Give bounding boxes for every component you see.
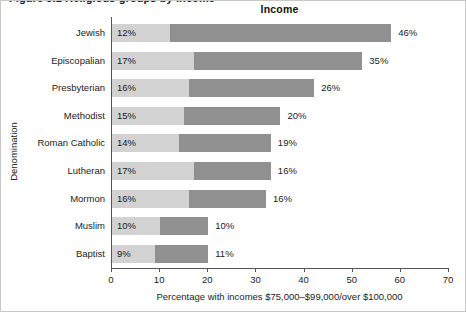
y-axis-category-label: Methodist [64, 110, 105, 121]
bar-segment-label-lower-income: 14% [117, 137, 136, 148]
bar-end-label-higher-income: 19% [278, 137, 297, 148]
y-axis-category-label: Episcopalian [51, 55, 105, 66]
x-axis-tick [111, 268, 112, 272]
y-axis-category-label: Muslim [75, 220, 105, 231]
bar-segment-label-lower-income: 17% [117, 165, 136, 176]
x-axis-tick [400, 268, 401, 272]
bar-row: 14%19% [111, 134, 448, 152]
bar-segment-higher-income [194, 162, 271, 180]
x-axis-tick-label: 10 [154, 274, 165, 285]
chart-figure: Figure 3.1 Religious groups by income In… [0, 0, 466, 312]
plot-area: 01020304050607012%46%17%35%16%26%15%20%1… [111, 17, 448, 267]
x-axis-tick [304, 268, 305, 272]
y-axis-category-label: Lutheran [67, 165, 105, 176]
x-axis-tick [352, 268, 353, 272]
bar-row: 10%10% [111, 217, 448, 235]
y-axis-category-label: Jewish [76, 27, 105, 38]
bar-segment-label-lower-income: 10% [117, 220, 136, 231]
bar-segment-label-lower-income: 15% [117, 110, 136, 121]
bar-segment-label-lower-income: 16% [117, 193, 136, 204]
bar-end-label-higher-income: 20% [288, 110, 307, 121]
y-axis-category-label: Baptist [76, 248, 105, 259]
bar-segment-higher-income [179, 134, 270, 152]
bar-row: 17%35% [111, 52, 448, 70]
x-axis-tick-label: 70 [443, 274, 454, 285]
x-axis-line [111, 268, 449, 269]
bar-end-label-higher-income: 26% [321, 82, 340, 93]
bar-segment-higher-income [184, 107, 280, 125]
x-axis-tick [255, 268, 256, 272]
x-axis-tick-label: 40 [298, 274, 309, 285]
bar-end-label-higher-income: 46% [398, 27, 417, 38]
bar-row: 15%20% [111, 107, 448, 125]
y-axis-category-labels: JewishEpiscopalianPresbyterianMethodistR… [1, 17, 105, 267]
y-axis-category-label: Mormon [70, 193, 105, 204]
x-axis-tick [159, 268, 160, 272]
bar-row: 16%16% [111, 190, 448, 208]
bar-end-label-higher-income: 35% [369, 55, 388, 66]
bar-segment-higher-income [155, 245, 208, 263]
bar-end-label-higher-income: 16% [273, 193, 292, 204]
x-axis-tick-label: 50 [346, 274, 357, 285]
bar-row: 17%16% [111, 162, 448, 180]
bar-segment-label-lower-income: 17% [117, 55, 136, 66]
x-axis-tick [207, 268, 208, 272]
chart-title: Income [111, 3, 448, 15]
x-axis-tick-label: 0 [108, 274, 113, 285]
y-axis-category-label: Roman Catholic [37, 137, 105, 148]
bar-row: 9%11% [111, 245, 448, 263]
bar-segment-higher-income [160, 217, 208, 235]
bar-segment-higher-income [194, 52, 363, 70]
bar-segment-higher-income [189, 79, 314, 97]
bar-end-label-higher-income: 11% [215, 248, 233, 259]
bar-segment-higher-income [189, 190, 266, 208]
bar-segment-higher-income [170, 24, 391, 42]
bar-row: 16%26% [111, 79, 448, 97]
bar-segment-label-lower-income: 16% [117, 82, 136, 93]
bar-segment-label-lower-income: 9% [117, 248, 131, 259]
x-axis-tick [448, 268, 449, 272]
x-axis-tick-label: 20 [202, 274, 213, 285]
x-axis-title: Percentage with incomes $75,000–$99,000/… [111, 291, 448, 302]
bar-row: 12%46% [111, 24, 448, 42]
bar-segment-label-lower-income: 12% [117, 27, 136, 38]
x-axis-tick-label: 60 [395, 274, 406, 285]
bar-end-label-higher-income: 10% [215, 220, 234, 231]
x-axis-tick-label: 30 [250, 274, 261, 285]
bar-end-label-higher-income: 16% [278, 165, 297, 176]
y-axis-category-label: Presbyterian [52, 82, 105, 93]
